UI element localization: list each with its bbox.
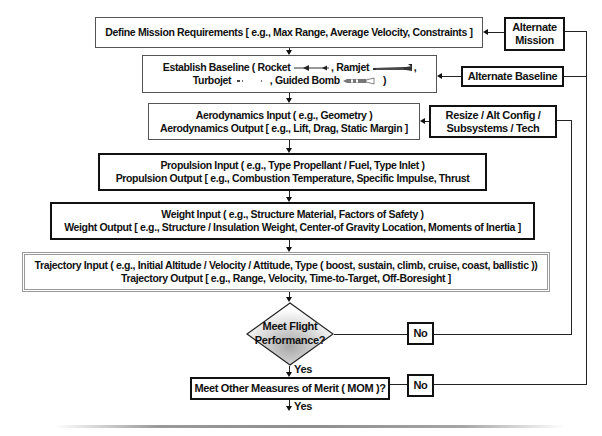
propulsion-input-text: Propulsion Input ( e.g., Type Propellant… xyxy=(160,159,424,172)
aerodynamics-box: Aerodynamics Input ( e.g., Geometry ) Ae… xyxy=(148,103,420,140)
no-box-flight: No xyxy=(407,322,434,345)
propulsion-box: Propulsion Input ( e.g., Type Propellant… xyxy=(98,153,487,191)
aero-input-text: Aerodynamics Input ( e.g., Geometry ) xyxy=(196,109,373,122)
arrow-down-icon xyxy=(286,372,292,377)
ramjet-icon xyxy=(372,64,414,73)
propulsion-output-text: Propulsion Output [ e.g., Combustion Tem… xyxy=(116,172,470,185)
inner-feedback-vertical xyxy=(571,120,572,335)
turbojet-icon xyxy=(234,78,270,84)
arrow-down-icon xyxy=(286,148,292,153)
baseline-line-2: Turbojet , Guided Bomb ) xyxy=(193,74,386,87)
bottom-divider xyxy=(55,425,565,428)
no-flight-to-right-line xyxy=(434,334,571,335)
mom-text: Meet Other Measures of Merit ( MOM )? xyxy=(194,382,385,395)
weight-output-text: Weight Output [ e.g., Structure / Insula… xyxy=(64,221,521,234)
flight-performance-decision: Meet Flight Performance? xyxy=(246,302,334,366)
decision-line-1: Meet Flight xyxy=(246,319,334,333)
arrow-left-icon xyxy=(483,29,488,35)
mom-decision-box: Meet Other Measures of Merit ( MOM )? xyxy=(190,377,390,400)
weight-box: Weight Input ( e.g., Structure Material,… xyxy=(50,202,535,240)
aero-output-text: Aerodynamics Output [ e.g., Lift, Drag, … xyxy=(160,122,408,135)
no-mom-to-right-line xyxy=(434,384,586,385)
alt-mission-to-define-line xyxy=(488,32,504,33)
alternate-baseline-box: Alternate Baseline xyxy=(461,66,564,87)
weight-input-text: Weight Input ( e.g., Structure Material,… xyxy=(161,208,423,221)
trajectory-box: Trajectory Input ( e.g., Initial Altitud… xyxy=(22,252,550,292)
arrow-down-icon xyxy=(286,247,292,252)
trajectory-input-text: Trajectory Input ( e.g., Initial Altitud… xyxy=(34,259,537,272)
no-box-mom: No xyxy=(407,374,434,397)
alt-baseline-to-baseline-line xyxy=(442,76,461,77)
arrow-left-icon xyxy=(420,118,425,124)
alternate-mission-box: Alternate Mission xyxy=(504,17,565,51)
arrow-down-icon xyxy=(286,197,292,202)
alt-baseline-right-stub xyxy=(564,76,586,77)
establish-baseline-box: Establish Baseline ( Rocket , Ramjet , T… xyxy=(142,55,437,93)
trajectory-output-text: Trajectory Output [ e.g., Range, Velocit… xyxy=(121,272,451,285)
arrow-down-icon xyxy=(286,406,292,411)
arrow-down-icon xyxy=(286,50,292,55)
mom-to-no-line xyxy=(390,384,407,385)
outer-feedback-vertical xyxy=(586,31,587,385)
diamond-to-no-line xyxy=(334,334,407,335)
yes-label-mom: Yes xyxy=(294,400,312,412)
resize-box: Resize / Alt Config / Subsystems / Tech xyxy=(429,105,557,138)
guided-bomb-icon xyxy=(342,77,380,85)
define-mission-text: Define Mission Requirements [ e.g., Max … xyxy=(105,26,472,39)
arrow-left-icon xyxy=(437,73,442,79)
baseline-line-1: Establish Baseline ( Rocket , Ramjet , xyxy=(163,61,416,74)
decision-line-2: Performance? xyxy=(246,333,334,347)
rocket-icon xyxy=(293,64,331,72)
yes-label-flight: Yes xyxy=(294,363,312,375)
arrow-down-icon xyxy=(286,98,292,103)
define-mission-box: Define Mission Requirements [ e.g., Max … xyxy=(95,17,483,48)
alt-mission-right-stub xyxy=(565,31,586,32)
resize-right-stub xyxy=(557,120,571,121)
arrow-down-icon xyxy=(286,297,292,302)
